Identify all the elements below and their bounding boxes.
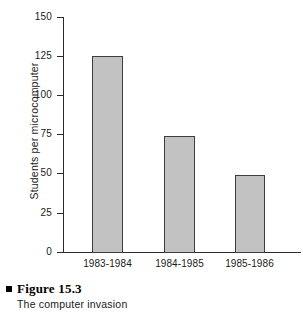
- y-tick-75: [57, 134, 63, 135]
- y-tick-50: [57, 173, 63, 174]
- square-bullet-icon: [6, 286, 12, 292]
- bar-1983-1984: [92, 56, 123, 253]
- bar-1985-1986: [235, 175, 265, 253]
- y-axis-title: Students per microcomputer: [28, 31, 40, 231]
- caption-subtitle: The computer invasion: [17, 298, 296, 310]
- x-tick-label-1983-1984: 1983-1984: [75, 258, 140, 269]
- caption-title: Figure 15.3: [17, 282, 82, 296]
- y-tick-100: [57, 95, 63, 96]
- y-tick-label-0: 0: [18, 247, 52, 257]
- y-tick-150: [57, 17, 63, 18]
- y-tick-0: [57, 252, 63, 253]
- y-axis-line: [63, 17, 64, 253]
- bar-1984-1985: [164, 136, 195, 253]
- figure-15-3: 150 125 100 75 50 25 0 1983-1984 1984-19…: [0, 0, 303, 315]
- x-tick-label-1985-1986: 1985-1986: [217, 258, 282, 269]
- y-tick-125: [57, 56, 63, 57]
- figure-caption: Figure 15.3 The computer invasion: [6, 282, 296, 310]
- y-tick-label-150: 150: [18, 12, 52, 22]
- caption-title-row: Figure 15.3: [6, 282, 296, 296]
- x-tick-label-1984-1985: 1984-1985: [147, 258, 212, 269]
- y-tick-25: [57, 213, 63, 214]
